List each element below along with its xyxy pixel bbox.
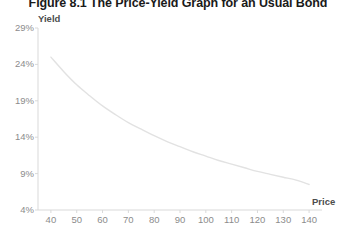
- chart-title: Figure 8.1 The Price-Yield Graph for an …: [0, 0, 356, 10]
- y-axis-title: Yield: [38, 13, 60, 24]
- x-tick-label: 100: [192, 214, 220, 225]
- x-tick-label: 40: [37, 214, 65, 225]
- data-series-group: [51, 57, 309, 184]
- plot-svg: [38, 28, 322, 210]
- x-tick-label: 70: [114, 214, 142, 225]
- series-line-price-yield: [51, 57, 309, 184]
- x-tick-label: 90: [166, 214, 194, 225]
- y-tick-label: 19%: [0, 96, 34, 106]
- x-tick-label: 50: [63, 214, 91, 225]
- x-tick-label: 60: [89, 214, 117, 225]
- x-tick-label: 130: [269, 214, 297, 225]
- x-tick-label: 110: [218, 214, 246, 225]
- y-tick-label: 24%: [0, 59, 34, 69]
- x-tick-label: 120: [243, 214, 271, 225]
- y-axis: [35, 28, 38, 210]
- y-tick-label: 9%: [0, 169, 34, 179]
- x-tick-label: 140: [295, 214, 323, 225]
- y-tick-label: 14%: [0, 132, 34, 142]
- x-axis-tick-labels: 405060708090100110120130140: [0, 214, 356, 228]
- y-tick-label: 29%: [0, 23, 34, 33]
- plot-area: [38, 28, 322, 210]
- x-tick-label: 80: [140, 214, 168, 225]
- x-axis: [38, 210, 322, 213]
- chart-figure: Figure 8.1 The Price-Yield Graph for an …: [0, 0, 356, 240]
- y-axis-tick-labels: 29%24%19%14%9%4%: [0, 0, 34, 240]
